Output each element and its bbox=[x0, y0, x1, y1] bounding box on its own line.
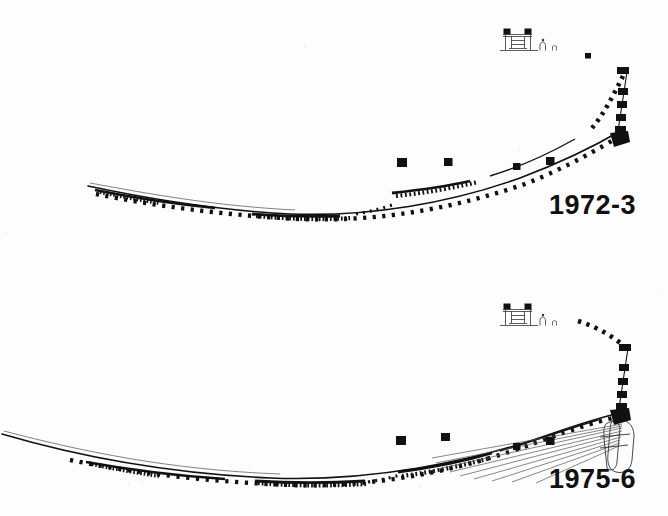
upper-isolated-square bbox=[585, 53, 591, 59]
figure-canvas: 1972-3 1975-6 bbox=[0, 0, 668, 516]
upper-column-square bbox=[618, 88, 628, 95]
upper-column-square bbox=[617, 67, 629, 74]
lower-column-square bbox=[619, 344, 631, 351]
lower-dotted-arc bbox=[578, 321, 624, 346]
upper-marker-square bbox=[513, 163, 521, 170]
panel-lower bbox=[2, 304, 634, 486]
scan-speck bbox=[519, 149, 520, 150]
lower-heavy-bar-mid bbox=[255, 481, 365, 483]
lower-gateway-frame-sketch bbox=[500, 304, 557, 326]
lower-marker-square bbox=[396, 436, 406, 445]
upper-column-square bbox=[616, 114, 626, 121]
upper-marker-square bbox=[546, 157, 555, 165]
lower-column-square bbox=[619, 364, 629, 371]
scan-speck bbox=[6, 232, 7, 233]
year-label-lower: 1975-6 bbox=[549, 464, 636, 495]
year-label-upper: 1972-3 bbox=[549, 190, 636, 221]
upper-column-blob bbox=[610, 131, 630, 147]
line-drawing-svg bbox=[0, 0, 668, 516]
upper-marker-square bbox=[397, 158, 407, 167]
upper-heavy-bar-far bbox=[490, 139, 575, 176]
lower-marker-square bbox=[441, 433, 450, 441]
scan-speck bbox=[142, 481, 143, 482]
upper-gateway-frame-sketch bbox=[500, 29, 557, 51]
lower-marker-square bbox=[546, 437, 555, 445]
upper-column-square bbox=[617, 101, 627, 108]
scan-speck bbox=[128, 484, 129, 485]
upper-dotted-trail bbox=[96, 136, 620, 219]
lower-column-square bbox=[618, 378, 628, 385]
upper-marker-square bbox=[444, 158, 453, 166]
lower-column-square bbox=[617, 391, 627, 398]
lower-marker-square bbox=[513, 443, 521, 450]
lower-dense-cluster-mid bbox=[258, 483, 366, 485]
scan-speck bbox=[657, 292, 658, 293]
scan-speck bbox=[420, 487, 421, 488]
lower-secondary-curve bbox=[4, 431, 280, 474]
scan-speck bbox=[304, 46, 305, 47]
